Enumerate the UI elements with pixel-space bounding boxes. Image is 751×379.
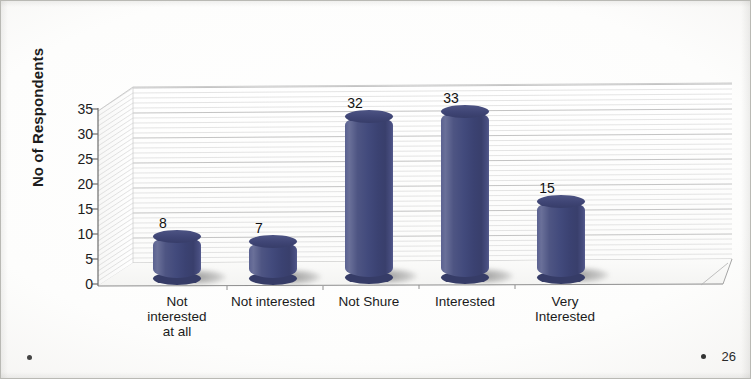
- chart-plot-area: 35 30 25 20 15 10 5 0: [1, 1, 751, 379]
- bar-top-ellipse-5: [537, 195, 585, 208]
- y-tick-5: 5: [59, 252, 93, 266]
- data-label-3: 32: [331, 96, 379, 110]
- data-label-2: 7: [235, 221, 283, 235]
- y-tick-30: 30: [59, 127, 93, 141]
- y-axis-tick-labels: 35 30 25 20 15 10 5 0: [55, 1, 93, 379]
- data-label-5: 15: [523, 181, 571, 195]
- y-tick-10: 10: [59, 227, 93, 241]
- y-tick-35: 35: [59, 102, 93, 116]
- bar-not-shure[interactable]: [345, 116, 393, 277]
- x-category-label-5: Very Interested: [513, 294, 617, 324]
- x-category-label-2: Not interested: [213, 294, 333, 309]
- y-tick-0: 0: [59, 277, 93, 291]
- bar-top-ellipse-3: [345, 110, 393, 123]
- bar-very-interested[interactable]: [537, 201, 585, 277]
- data-label-4: 33: [427, 91, 475, 105]
- x-category-label-1: Not interested at all: [127, 294, 227, 339]
- bar-top-ellipse-2: [249, 235, 297, 248]
- bar-body-3: [345, 116, 393, 277]
- slide-canvas: No of Respondents: [0, 0, 751, 379]
- y-tick-15: 15: [59, 202, 93, 216]
- bar-top-ellipse-1: [153, 230, 201, 243]
- bar-interested[interactable]: [441, 111, 489, 277]
- footer-bullet-right-icon: [701, 354, 706, 359]
- y-tick-20: 20: [59, 177, 93, 191]
- bar-body-4: [441, 111, 489, 277]
- bar-body-5: [537, 201, 585, 277]
- x-category-label-4: Interested: [415, 294, 515, 309]
- bar-not-interested-at-all[interactable]: [153, 236, 201, 278]
- bar-top-ellipse-4: [441, 105, 489, 118]
- x-category-label-3: Not Shure: [319, 294, 419, 309]
- footer-bullet-left-icon: [27, 355, 32, 360]
- y-tick-25: 25: [59, 152, 93, 166]
- data-label-1: 8: [139, 216, 187, 230]
- bar-not-interested[interactable]: [249, 241, 297, 278]
- slide-page-number: 26: [722, 349, 736, 364]
